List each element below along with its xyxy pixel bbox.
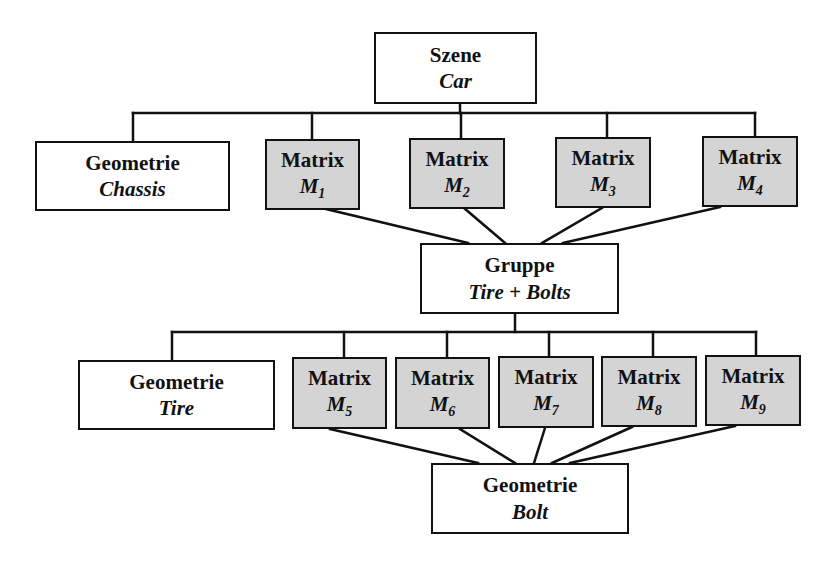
node-matrix-m2: Matrix M2: [409, 138, 505, 209]
node-type-label: Matrix: [572, 145, 635, 171]
edge-m7-bolt: [534, 428, 545, 463]
node-type-label: Matrix: [515, 364, 578, 390]
node-type-label: Matrix: [308, 365, 371, 391]
node-type-label: Matrix: [281, 147, 344, 173]
edge-m3-group: [542, 208, 602, 243]
edge-m2-group: [464, 208, 505, 243]
node-name-label: Chassis: [99, 176, 166, 202]
node-matrix-m9: Matrix M9: [705, 355, 801, 426]
node-name-label: M5: [327, 391, 353, 421]
node-name-label: M4: [737, 170, 763, 200]
node-geometrie-chassis: Geometrie Chassis: [35, 141, 230, 211]
node-matrix-m3: Matrix M3: [555, 137, 651, 208]
node-name-label: Bolt: [512, 499, 548, 525]
node-type-label: Matrix: [618, 364, 681, 390]
node-type-label: Geometrie: [483, 472, 577, 498]
node-type-label: Matrix: [426, 146, 489, 172]
node-name-label: M1: [300, 173, 326, 203]
node-geometrie-tire: Geometrie Tire: [78, 360, 275, 430]
edge-m5-bolt: [330, 429, 478, 463]
node-matrix-m8: Matrix M8: [601, 356, 697, 427]
node-matrix-m1: Matrix M1: [265, 139, 360, 210]
node-name-label: M3: [590, 171, 616, 201]
edge-m6-bolt: [460, 429, 515, 463]
edge-m1-group: [326, 209, 468, 243]
node-name-label: M2: [444, 172, 470, 202]
node-matrix-m6: Matrix M6: [395, 357, 490, 429]
node-szene-car: Szene Car: [374, 32, 537, 104]
edge-m4-group: [563, 207, 720, 243]
node-name-label: M9: [740, 389, 766, 419]
node-type-label: Geometrie: [85, 150, 179, 176]
node-matrix-m7: Matrix M7: [498, 356, 594, 428]
node-type-label: Geometrie: [129, 369, 223, 395]
node-type-label: Matrix: [719, 144, 782, 170]
node-name-label: M8: [636, 390, 662, 420]
node-name-label: Tire + Bolts: [468, 279, 570, 305]
node-type-label: Szene: [430, 42, 481, 68]
node-name-label: Tire: [159, 395, 194, 421]
node-gruppe-tire-bolts: Gruppe Tire + Bolts: [420, 243, 619, 314]
node-type-label: Matrix: [722, 363, 785, 389]
node-matrix-m4: Matrix M4: [702, 136, 798, 207]
node-matrix-m5: Matrix M5: [292, 357, 387, 429]
node-name-label: M7: [533, 390, 559, 420]
node-name-label: M6: [430, 391, 456, 421]
node-type-label: Matrix: [411, 365, 474, 391]
node-geometrie-bolt: Geometrie Bolt: [431, 463, 629, 534]
node-type-label: Gruppe: [484, 252, 554, 278]
node-name-label: Car: [439, 68, 472, 94]
